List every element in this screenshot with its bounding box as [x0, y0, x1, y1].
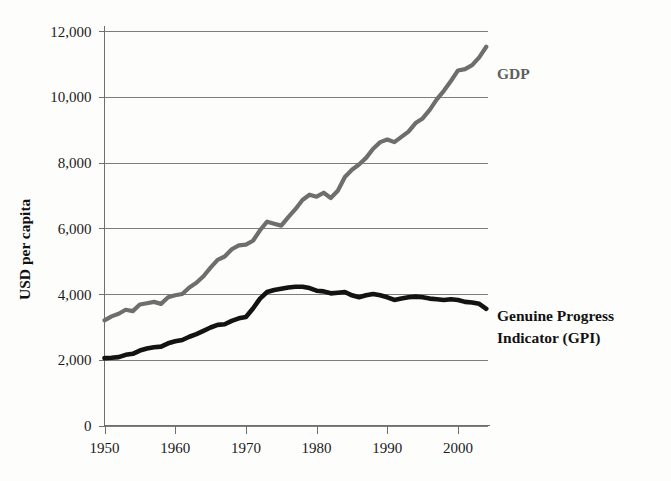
gridlines-group	[105, 32, 489, 427]
chart-page: 02,0004,0006,0008,00010,00012,000 195019…	[0, 0, 671, 481]
series-label-gpi-line2: Indicator (GPI)	[497, 329, 600, 347]
line-chart: 02,0004,0006,0008,00010,00012,000 195019…	[0, 0, 671, 481]
y-tick-label: 0	[84, 418, 92, 434]
y-tick-label: 6,000	[58, 221, 92, 237]
x-tick-label: 1960	[160, 440, 190, 456]
x-tick-label: 1980	[302, 440, 332, 456]
y-axis-title: USD per capita	[16, 198, 33, 300]
series-label-gdp: GDP	[497, 65, 530, 82]
y-tick-labels-group: 02,0004,0006,0008,00010,00012,000	[50, 24, 91, 435]
x-tick-label: 2000	[443, 440, 473, 456]
x-tick-label: 1950	[90, 440, 120, 456]
x-tick-labels-group: 195019601970198019902000	[90, 440, 474, 456]
series-line-gpi	[105, 287, 487, 358]
x-tick-label: 1990	[372, 440, 402, 456]
series-line-gdp	[105, 47, 487, 321]
x-tick-label: 1970	[231, 440, 261, 456]
y-tick-label: 10,000	[50, 89, 91, 105]
y-tick-label: 8,000	[58, 155, 92, 171]
tickmarks-group	[99, 32, 459, 434]
y-tick-label: 4,000	[58, 287, 92, 303]
y-tick-label: 2,000	[58, 352, 92, 368]
y-tick-label: 12,000	[50, 24, 91, 40]
series-label-gpi-line1: Genuine Progress	[497, 307, 614, 324]
